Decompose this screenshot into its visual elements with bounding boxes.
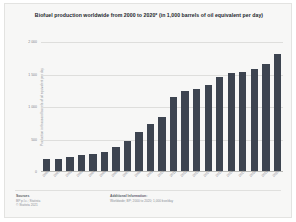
bar-slot — [156, 42, 168, 171]
x-axis-label-slot: 2004 — [87, 173, 99, 191]
bar-slot — [76, 42, 88, 171]
bar[interactable] — [158, 117, 165, 171]
x-axis-label-slot: 2006 — [110, 173, 122, 191]
y-axis-tick-label: 2 000 — [28, 40, 37, 44]
bar[interactable] — [205, 85, 212, 171]
x-axis-label-slot: 2005 — [99, 173, 111, 191]
x-axis-label-slot: 2002 — [64, 173, 76, 191]
x-axis-label-slot: 2007 — [122, 173, 134, 191]
bar[interactable] — [228, 73, 235, 171]
bar-slot — [191, 42, 203, 171]
bar-slot — [260, 42, 272, 171]
y-axis-tick-label: 0 — [35, 170, 37, 174]
y-axis-tick-label: 500 — [31, 138, 37, 142]
x-axis-label-slot: 2013 — [191, 173, 203, 191]
x-axis-label-slot: 2014 — [202, 173, 214, 191]
x-axis-label-slot: 2010 — [156, 173, 168, 191]
bar-slot — [179, 42, 191, 171]
bar-slot — [110, 42, 122, 171]
bar-slot — [168, 42, 180, 171]
bar-slot — [87, 42, 99, 171]
bar[interactable] — [101, 152, 108, 171]
bar[interactable] — [262, 64, 269, 171]
bar[interactable] — [251, 69, 258, 171]
x-axis-label-slot: 2003 — [76, 173, 88, 191]
bar-slot — [41, 42, 53, 171]
bar[interactable] — [135, 132, 142, 171]
chart-title: Biofuel production worldwide from 2000 t… — [19, 12, 279, 20]
x-axis-labels: 2000200120022003200420052006200720082009… — [41, 173, 283, 191]
x-axis-label-slot: 2018 — [249, 173, 261, 191]
x-axis-label-slot: 2011 — [168, 173, 180, 191]
bar[interactable] — [147, 124, 154, 171]
sources-heading: Sources — [16, 194, 96, 198]
bar-slot — [272, 42, 284, 171]
bar-slot — [122, 42, 134, 171]
x-axis-label-slot: 2020 — [272, 173, 284, 191]
bar-slot — [202, 42, 214, 171]
bar[interactable] — [124, 141, 131, 171]
additional-information-block: Additional Information: Worldwide; BP; 2… — [110, 194, 260, 203]
x-axis-label-slot: 2009 — [145, 173, 157, 191]
x-axis-label-slot: 2012 — [179, 173, 191, 191]
y-axis-ticks: 2 0001 5001 0005000 — [5, 42, 39, 173]
x-axis-label-slot: 2000 — [41, 173, 53, 191]
y-axis-tick-label: 1 500 — [28, 73, 37, 77]
sources-block: Sources BP p.l.c.; Statista © Statista 2… — [16, 194, 96, 208]
x-axis-label-slot: 2019 — [260, 173, 272, 191]
y-axis-tick-label: 1 000 — [28, 105, 37, 109]
bar-slot — [237, 42, 249, 171]
x-axis-label-slot: 2015 — [214, 173, 226, 191]
additional-information-heading: Additional Information: — [110, 194, 260, 198]
bar[interactable] — [112, 147, 119, 171]
bar-slot — [226, 42, 238, 171]
additional-information-line-1: Worldwide; BP; 2000 to 2020; 1,000 boe/d… — [110, 199, 260, 203]
footer-divider — [15, 190, 281, 191]
x-axis-label-slot: 2001 — [53, 173, 65, 191]
plot-area — [41, 42, 283, 172]
x-axis-label-slot: 2008 — [133, 173, 145, 191]
bar-slot — [249, 42, 261, 171]
bar[interactable] — [239, 72, 246, 171]
x-axis-label-slot: 2017 — [237, 173, 249, 191]
bar-slot — [64, 42, 76, 171]
sources-line-2: © Statista 2021 — [16, 203, 96, 207]
bar-slot — [53, 42, 65, 171]
bar[interactable] — [274, 54, 281, 171]
bar[interactable] — [170, 97, 177, 171]
bar-slot — [214, 42, 226, 171]
bar[interactable] — [216, 77, 223, 171]
chart-card: Biofuel production worldwide from 2000 t… — [4, 3, 292, 218]
bar-slot — [145, 42, 157, 171]
bar[interactable] — [181, 91, 188, 171]
bar[interactable] — [193, 89, 200, 171]
x-axis-label-slot: 2016 — [226, 173, 238, 191]
chart-footer: Sources BP p.l.c.; Statista © Statista 2… — [5, 190, 291, 218]
bar-slot — [133, 42, 145, 171]
bar-series — [41, 42, 283, 171]
bar-slot — [99, 42, 111, 171]
